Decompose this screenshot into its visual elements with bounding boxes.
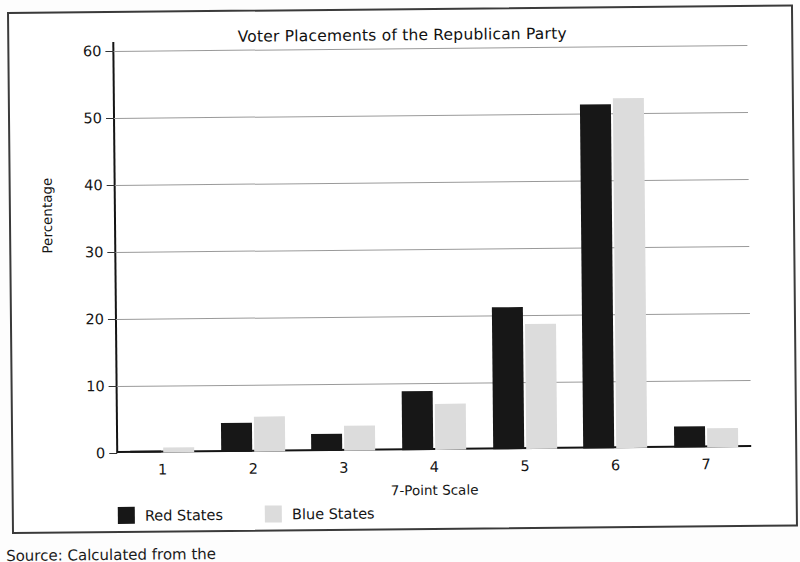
y-tick-mark xyxy=(106,118,114,119)
bar-blue-states-2 xyxy=(254,417,285,452)
legend-label: Red States xyxy=(145,506,223,523)
x-tick-label: 2 xyxy=(249,461,258,477)
x-tick-label: 3 xyxy=(339,460,348,476)
y-tick-mark xyxy=(105,51,113,52)
legend-swatch-icon xyxy=(265,505,282,522)
bar-group: 7 xyxy=(657,45,751,448)
y-tick-mark xyxy=(109,453,117,454)
x-tick-label: 4 xyxy=(430,459,439,475)
bar-groups: 1234567 xyxy=(113,45,751,453)
bar-red-states-3 xyxy=(312,434,343,451)
bar-blue-states-7 xyxy=(707,428,738,448)
bar-red-states-6 xyxy=(580,105,614,449)
y-axis-title: Percentage xyxy=(39,178,56,254)
bar-group: 5 xyxy=(476,47,570,450)
bar-group: 4 xyxy=(385,48,479,451)
chart-area: Voter Placements of the Republican Party… xyxy=(9,6,800,536)
legend-item-red-states: Red States xyxy=(118,506,223,524)
bar-blue-states-4 xyxy=(435,403,466,450)
bar-group: 3 xyxy=(295,48,389,451)
plot-area: 0102030405060 1234567 xyxy=(113,45,751,453)
legend-label: Blue States xyxy=(292,505,375,522)
bar-blue-states-3 xyxy=(344,425,375,451)
bar-group: 2 xyxy=(204,49,298,452)
x-axis-title: 7-Point Scale xyxy=(118,479,752,501)
y-tick-label: 50 xyxy=(83,110,102,126)
bar-group: 1 xyxy=(113,50,207,453)
figure-frame: Voter Placements of the Republican Party… xyxy=(7,4,798,534)
x-tick-label: 7 xyxy=(701,456,710,472)
chart-legend: Red StatesBlue States xyxy=(118,504,458,524)
y-tick-label: 30 xyxy=(85,244,104,260)
bar-blue-states-5 xyxy=(525,324,557,449)
figure-page: Voter Placements of the Republican Party… xyxy=(0,0,800,562)
bar-group: 6 xyxy=(566,46,660,449)
y-tick-label: 10 xyxy=(86,378,105,394)
y-tick-label: 40 xyxy=(84,177,103,193)
chart-title: Voter Placements of the Republican Party xyxy=(9,22,795,48)
y-tick-mark xyxy=(107,185,115,186)
y-tick-label: 60 xyxy=(83,43,102,59)
y-tick-mark xyxy=(107,252,115,253)
legend-swatch-icon xyxy=(118,507,135,524)
bar-red-states-4 xyxy=(402,391,434,450)
y-tick-mark xyxy=(109,386,117,387)
bar-red-states-1 xyxy=(130,451,161,453)
bar-blue-states-6 xyxy=(613,98,647,448)
x-tick-label: 1 xyxy=(158,461,167,477)
y-tick-mark xyxy=(108,319,116,320)
legend-item-blue-states: Blue States xyxy=(265,504,375,522)
x-tick-label: 6 xyxy=(611,457,620,473)
bar-red-states-2 xyxy=(221,423,252,452)
x-tick-label: 5 xyxy=(520,458,529,474)
bar-blue-states-1 xyxy=(163,448,194,453)
y-tick-label: 0 xyxy=(96,445,105,461)
bar-red-states-5 xyxy=(491,307,523,449)
y-tick-label: 20 xyxy=(85,311,104,327)
source-caption: Source: Calculated from the xyxy=(6,545,216,562)
bar-red-states-7 xyxy=(674,427,705,448)
